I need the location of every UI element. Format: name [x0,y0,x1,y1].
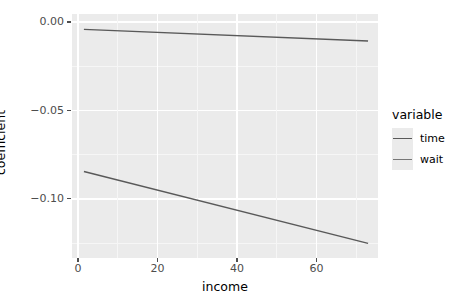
legend-item-wait[interactable]: wait [392,149,468,170]
x-tick-label: 60 [296,263,336,274]
y-tick-mark [67,110,71,111]
x-tick-label: 20 [137,263,177,274]
legend-key-line-icon [393,159,412,161]
y-tick-mark [67,198,71,199]
y-tick-mark [67,21,71,22]
chart-root: 0.00−0.05−0.10 coefficient 0204060 incom… [0,0,468,301]
series-layer [72,14,378,258]
x-tick-mark [77,258,78,262]
x-axis-title: income [72,280,378,293]
y-tick-label: 0.00 [40,16,65,27]
x-tick-mark [236,258,237,262]
legend-key-wait [392,149,413,170]
plot-panel [72,14,378,258]
y-axis-title: coefficient [0,110,7,175]
x-tick-mark [316,258,317,262]
legend-key-line-icon [393,138,412,140]
x-tick-label: 40 [217,263,257,274]
legend: variable timewait [392,108,468,170]
x-tick-label: 0 [58,263,98,274]
x-tick-mark [157,258,158,262]
series-line-wait [84,172,368,244]
legend-label: wait [420,154,443,165]
legend-key-time [392,128,413,149]
legend-items: timewait [392,128,468,170]
legend-label: time [420,133,445,144]
legend-item-time[interactable]: time [392,128,468,149]
y-tick-label: −0.05 [30,105,64,116]
y-tick-label: −0.10 [30,193,64,204]
series-line-time [84,29,368,41]
legend-title: variable [392,108,468,122]
